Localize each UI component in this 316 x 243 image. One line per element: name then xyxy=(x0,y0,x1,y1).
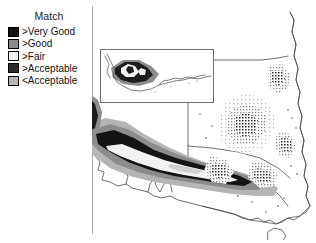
map-canvas xyxy=(92,6,314,240)
legend-swatch-very-good xyxy=(8,27,19,37)
legend-swatch-acceptable xyxy=(8,63,19,73)
legend-item-acceptable: >Acceptable xyxy=(8,63,90,75)
legend-label-acceptable: >Acceptable xyxy=(22,63,77,74)
map-inset-box xyxy=(100,49,214,103)
legend-swatch-fair xyxy=(8,51,19,61)
legend-item-good: >Good xyxy=(8,38,90,50)
suitability-zone-eastern xyxy=(204,64,296,188)
legend-item-fair: >Fair xyxy=(8,50,90,62)
inset-scatter-dots xyxy=(155,80,198,92)
legend-item-very-good: >Very Good xyxy=(8,26,90,38)
legend-label-below-acceptable: <Acceptable xyxy=(22,75,77,86)
legend-label-good: >Good xyxy=(22,38,52,49)
map-legend: Match >Very Good >Good >Fair >Acceptable… xyxy=(8,10,90,87)
figure-root: Match >Very Good >Good >Fair >Acceptable… xyxy=(0,0,316,243)
legend-title: Match xyxy=(8,10,90,22)
legend-item-below-acceptable: <Acceptable xyxy=(8,75,90,87)
map-graphic xyxy=(92,6,314,240)
map-inset-graphic xyxy=(101,50,213,102)
legend-swatch-below-acceptable xyxy=(8,76,19,86)
legend-label-very-good: >Very Good xyxy=(22,26,75,37)
legend-label-fair: >Fair xyxy=(22,51,45,62)
legend-swatch-good xyxy=(8,39,19,49)
